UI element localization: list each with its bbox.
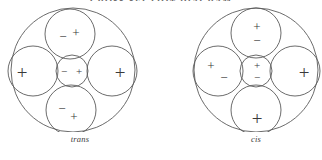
trans-top-lobe-sign-minus-0: −: [59, 29, 66, 44]
trans-left-lobe: [8, 46, 58, 96]
caption-cis: cis: [190, 134, 322, 144]
caption-trans: trans: [0, 134, 160, 144]
trans-svg: −+++−+−+: [0, 0, 160, 132]
cis-right-lobe: [270, 46, 320, 96]
trans-right-lobe-sign-plus-0: +: [115, 62, 126, 83]
cis-left-lobe: [193, 46, 243, 96]
cis-top-lobe-sign-plus-0: +: [253, 19, 260, 34]
trans-core-lobe-sign-minus-0: −: [61, 65, 67, 77]
diagram-cis: +−+−+++− cis: [190, 0, 322, 160]
trans-bottom-lobe-sign-minus-0: −: [58, 101, 65, 116]
diagram-trans: −+++−+−+ trans: [0, 0, 160, 160]
cis-svg: +−+−+++−: [190, 0, 322, 132]
cis-top-lobe-sign-minus-1: −: [253, 33, 260, 48]
cis-right-lobe-sign-plus-0: +: [299, 62, 310, 83]
cis-left-lobe-sign-plus-0: +: [207, 58, 214, 73]
cis-core-lobe-sign-minus-1: −: [254, 71, 260, 83]
trans-bottom-lobe-sign-plus-1: +: [70, 109, 77, 124]
figure-canvas: CROSS-SECTION DIAGRAM −+++−+−+ trans +−+…: [0, 0, 322, 160]
cis-core-lobe-sign-plus-0: +: [254, 59, 260, 71]
cis-left-lobe-sign-minus-1: −: [220, 70, 227, 85]
trans-top-lobe: [45, 9, 95, 59]
trans-left-lobe-sign-plus-0: +: [17, 62, 28, 83]
cis-bottom-lobe-sign-plus-0: +: [252, 108, 263, 129]
trans-right-lobe: [87, 46, 137, 96]
trans-core-lobe-sign-plus-1: +: [76, 65, 82, 77]
trans-top-lobe-sign-plus-1: +: [72, 25, 79, 40]
